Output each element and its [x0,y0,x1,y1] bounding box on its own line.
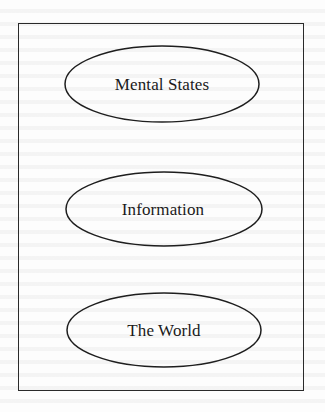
diagram-page: Mental States Information The World [0,0,325,412]
node-label-the-world: The World [127,321,200,341]
node-label-information: Information [122,200,204,220]
node-label-mental-states: Mental States [115,75,209,95]
